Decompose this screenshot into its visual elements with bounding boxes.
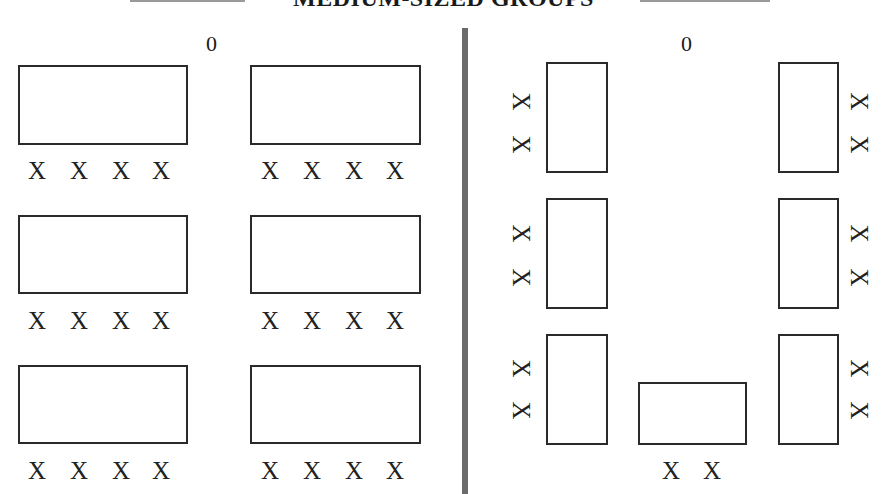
title-rule-right	[640, 0, 770, 2]
seat-x: X	[110, 158, 132, 183]
diagram-title: MEDIUM-SIZED GROUPS	[257, 0, 630, 10]
table-right-center-bottom	[638, 382, 747, 445]
table-right-right-bottom	[778, 334, 839, 445]
table-left-r3c2	[250, 365, 421, 444]
seat-x: X	[509, 134, 534, 156]
seat-x: X	[847, 134, 872, 156]
panel-divider	[462, 28, 468, 494]
seat-x: X	[509, 223, 534, 245]
seat-x: X	[259, 158, 281, 183]
table-left-r2c1	[18, 215, 188, 294]
seat-x: X	[150, 308, 172, 333]
seat-x: X	[343, 308, 365, 333]
table-left-r2c2	[250, 215, 421, 294]
seat-x: X	[509, 358, 534, 380]
table-left-r3c1	[18, 365, 188, 444]
seat-x: X	[701, 458, 723, 483]
seat-x: X	[26, 158, 48, 183]
right-panel-label: 0	[681, 33, 692, 55]
table-right-right-top	[778, 62, 839, 173]
seat-x: X	[509, 400, 534, 422]
seat-x: X	[301, 458, 323, 483]
seat-x: X	[847, 267, 872, 289]
seat-x: X	[68, 458, 90, 483]
seat-x: X	[150, 458, 172, 483]
table-right-left-top	[546, 62, 608, 173]
seat-x: X	[26, 308, 48, 333]
seat-x: X	[509, 91, 534, 113]
seat-x: X	[509, 267, 534, 289]
seat-x: X	[301, 158, 323, 183]
seat-x: X	[259, 458, 281, 483]
seat-x: X	[68, 308, 90, 333]
table-right-left-middle	[546, 198, 608, 309]
seat-x: X	[259, 308, 281, 333]
table-left-r1c2	[250, 65, 421, 145]
seat-x: X	[301, 308, 323, 333]
seat-x: X	[847, 400, 872, 422]
table-right-right-middle	[778, 198, 839, 309]
left-panel-label: 0	[206, 33, 217, 55]
seat-x: X	[384, 308, 406, 333]
table-right-left-bottom	[546, 334, 608, 445]
seat-x: X	[847, 358, 872, 380]
seat-x: X	[110, 458, 132, 483]
seat-x: X	[110, 308, 132, 333]
seat-x: X	[343, 158, 365, 183]
seat-x: X	[68, 158, 90, 183]
seat-x: X	[847, 91, 872, 113]
seat-x: X	[660, 458, 682, 483]
title-bar: MEDIUM-SIZED GROUPS	[0, 0, 881, 10]
seat-x: X	[150, 158, 172, 183]
table-left-r1c1	[18, 65, 188, 145]
title-rule-left	[130, 0, 245, 2]
seat-x: X	[26, 458, 48, 483]
seat-x: X	[384, 158, 406, 183]
seat-x: X	[384, 458, 406, 483]
seat-x: X	[847, 223, 872, 245]
seat-x: X	[343, 458, 365, 483]
